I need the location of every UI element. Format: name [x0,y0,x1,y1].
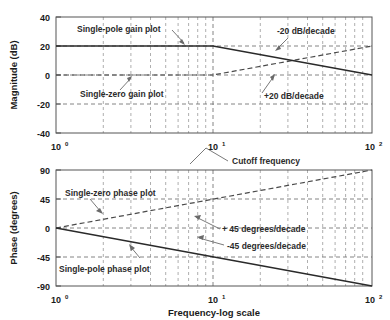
magnitude-xtick-exp-1: 1 [222,141,226,147]
magnitude-xtick-base-0: 10 [51,142,61,152]
pointer-slope-minus20 [275,38,288,51]
magnitude-ytick-40: 40 [40,13,50,23]
magnitude-xtick-exp-0: 0 [65,141,69,147]
phase-ytick-45: 45 [40,195,50,205]
magnitude-axis-title: Magnitude (dB) [8,40,19,109]
phase-xtick-exp-2: 2 [379,294,383,300]
annotation-slope-plus45: + 45 degrees/decade [222,224,306,234]
magnitude-ytick-20: 20 [40,42,50,52]
annotation-single-pole-phase: Single-pole phase plot [59,264,150,274]
phase-xtick-exp-0: 0 [65,294,69,300]
phase-xtick-base-2: 10 [365,295,375,305]
annotation-single-zero-gain: Single-zero gain plot [80,89,164,99]
phase-axis-title: Phase (degrees) [8,191,19,264]
cutoff-frequency-annotation: Cutoff frequency [190,148,300,166]
bode-plot-figure: Magnitude (dB) 40 20 0 -20 -40 10 0 10 1… [0,0,390,320]
magnitude-xtick-1e0: 10 0 [51,141,69,153]
magnitude-ytick-minus40: -40 [37,129,50,139]
phase-xtick-base-1: 10 [208,295,218,305]
magnitude-xtick-1e2: 10 2 [365,141,383,153]
phase-x-axis-title: Frequency-log scale [168,307,260,318]
phase-xtick-1e0: 10 0 [51,294,69,306]
magnitude-ytick-minus20: -20 [37,100,50,110]
pointer-single-pole-gain [172,30,185,45]
phase-xtick-1e1: 10 1 [208,294,226,306]
phase-ytick-minus90: -90 [37,282,50,292]
phase-xtick-1e2: 10 2 [365,294,383,306]
magnitude-xtick-base-2: 10 [365,142,375,152]
phase-ytick-90: 90 [40,166,50,176]
annotation-slope-minus20: -20 dB/decade [277,26,335,36]
annotation-single-zero-phase: Single-zero phase plot [65,188,156,198]
pointer-single-zero-phase [90,199,103,214]
magnitude-xtick-exp-2: 2 [379,141,383,147]
phase-panel: Phase (degrees) 90 45 0 -45 -90 10 0 10 … [8,166,383,319]
phase-xtick-exp-1: 1 [222,294,226,300]
magnitude-ytick-0: 0 [45,71,50,81]
pointer-single-zero-gain [120,76,132,90]
phase-xtick-base-0: 10 [51,295,61,305]
phase-ytick-0: 0 [45,224,50,234]
pointer-slope-minus45 [197,235,224,245]
bode-plot-svg: Magnitude (dB) 40 20 0 -20 -40 10 0 10 1… [0,0,390,320]
annotation-cutoff-frequency: Cutoff frequency [232,156,300,166]
annotation-slope-minus45: -45 degrees/decade [227,241,306,251]
annotation-single-pole-gain: Single-pole gain plot [77,24,161,34]
phase-ytick-minus45: -45 [37,253,50,263]
magnitude-panel: Magnitude (dB) 40 20 0 -20 -40 10 0 10 1… [8,13,383,153]
annotation-slope-plus20: +20 dB/decade [264,91,324,101]
